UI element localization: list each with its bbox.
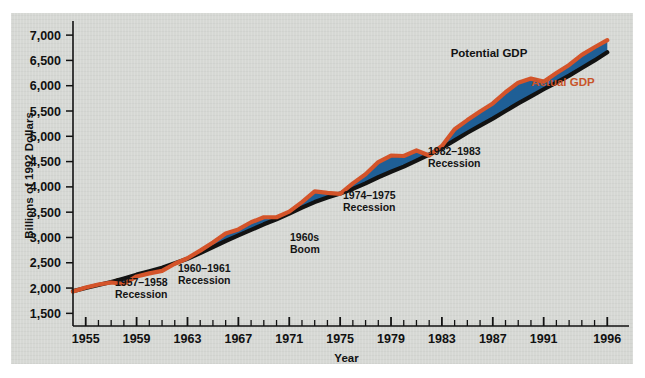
x-axis-ticks: 1955195919631967197119751979198319871991… [72,317,621,346]
annotation-rec-1974: 1974–1975 Recession [343,189,396,213]
annotation-rec-1960: 1960–1961 Recession [178,262,231,286]
chart-panel: 1,5002,0002,5003,0003,5004,0004,5005,000… [11,13,633,364]
annotation-rec-1974-line1: 1974–1975 [343,189,396,201]
y-tick-label: 6,000 [30,79,61,93]
annotation-rec-1957-line1: 1957–1958 [115,276,168,288]
annotation-rec-1974-line2: Recession [343,201,396,213]
annotation-boom-1960s-line1: 1960s [290,231,319,243]
annotation-rec-1960-line1: 1960–1961 [178,262,231,274]
annotation-rec-1982-line1: 1982–1983 [428,145,481,157]
y-tick-label: 2,000 [30,282,61,296]
y-tick-label: 1,500 [30,307,61,321]
x-tick-label: 1955 [72,332,100,346]
y-axis-ticks: 1,5002,0002,5003,0003,5004,0004,5005,000… [30,29,73,321]
x-tick-label: 1975 [326,332,354,346]
annotation-rec-1957: 1957–1958 Recession [115,276,168,300]
gdp-line-chart: 1,5002,0002,5003,0003,5004,0004,5005,000… [11,13,633,364]
y-axis-title: Billions of 1992 Dollars [23,112,35,239]
x-tick-label: 1959 [123,332,151,346]
legend-actual-gdp: Actual GDP [531,76,595,88]
y-tick-label: 7,000 [30,29,61,43]
figure-root: 1,5002,0002,5003,0003,5004,0004,5005,000… [0,0,645,378]
y-tick-label: 6,500 [30,54,61,68]
x-tick-label: 1979 [377,332,405,346]
x-tick-label: 1967 [224,332,252,346]
annotation-boom-1960s: 1960s Boom [290,231,320,255]
x-tick-label: 1991 [530,332,558,346]
actual-gdp-line [73,40,607,291]
legend-potential-gdp: Potential GDP [451,47,528,59]
x-tick-label: 1996 [593,332,621,346]
x-tick-label: 1963 [174,332,202,346]
x-tick-label: 1971 [275,332,303,346]
x-axis-title: Year [334,352,359,364]
x-tick-label: 1983 [428,332,456,346]
y-tick-label: 2,500 [30,256,61,270]
x-tick-label: 1987 [479,332,507,346]
annotation-rec-1982-line2: Recession [428,157,481,169]
annotation-rec-1960-line2: Recession [178,274,231,286]
annotation-rec-1957-line2: Recession [115,288,168,300]
annotation-boom-1960s-line2: Boom [290,243,320,255]
annotation-rec-1982: 1982–1983 Recession [428,145,481,169]
